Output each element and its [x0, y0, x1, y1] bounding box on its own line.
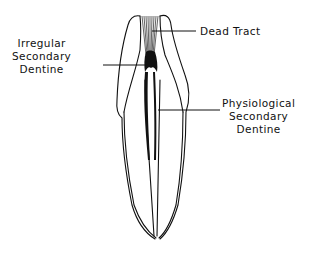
- label-dead-tract: Dead Tract: [200, 25, 261, 38]
- pulp-right-wall: [157, 80, 160, 236]
- tooth-outer-right-outline: [160, 15, 189, 239]
- physiological-secondary-dentine-left: [144, 72, 150, 160]
- tooth-diagram: Dead Tract Irregular Secondary Dentine P…: [0, 0, 324, 253]
- label-physiological-line-2: Secondary: [222, 110, 295, 123]
- dead-tract-hatching: [142, 16, 158, 55]
- label-physiological-secondary-dentine: Physiological Secondary Dentine: [222, 97, 295, 136]
- label-physiological-line-1: Physiological: [222, 97, 295, 110]
- dentine-right-inner: [159, 112, 183, 238]
- label-irregular-line-1: Irregular: [12, 37, 71, 50]
- irregular-secondary-dentine-shape: [144, 51, 157, 73]
- tooth-outer-left-outline: [117, 16, 155, 239]
- label-dead-tract-line-1: Dead Tract: [200, 25, 261, 38]
- physiological-secondary-dentine-right: [153, 72, 156, 160]
- dentine-left-inner: [124, 112, 156, 238]
- label-irregular-line-3: Dentine: [12, 63, 71, 76]
- label-irregular-secondary-dentine: Irregular Secondary Dentine: [12, 37, 71, 76]
- label-irregular-line-2: Secondary: [12, 50, 71, 63]
- label-physiological-line-3: Dentine: [222, 123, 295, 136]
